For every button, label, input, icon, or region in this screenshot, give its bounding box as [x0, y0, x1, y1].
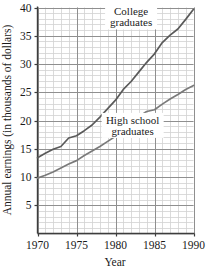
- series-annotations: CollegegraduatesHigh schoolgraduates: [102, 4, 164, 137]
- x-tick-label-1980: 1980: [104, 239, 127, 251]
- earnings-line-chart: 510152025303540 19701975198019851990 Col…: [0, 0, 207, 272]
- y-tick-label-5: 5: [26, 199, 32, 211]
- x-tick-label-1985: 1985: [143, 239, 166, 251]
- chart-canvas: 510152025303540 19701975198019851990 Col…: [0, 0, 207, 272]
- y-tick-label-35: 35: [20, 30, 32, 42]
- x-tick-label-1970: 1970: [26, 239, 49, 251]
- x-tick-label-1990: 1990: [182, 239, 205, 251]
- y-tick-label-20: 20: [20, 115, 32, 127]
- y-tick-label-15: 15: [20, 143, 32, 155]
- annotation-line-2: graduates: [110, 16, 152, 28]
- y-axis-title: Annual earnings (in thousands of dollars…: [1, 24, 14, 215]
- annotation-line-2: graduates: [112, 125, 154, 137]
- y-tick-label-10: 10: [20, 171, 32, 183]
- y-axis-tick-labels: 510152025303540: [20, 2, 32, 212]
- y-tick-label-25: 25: [20, 86, 32, 98]
- x-tick-label-1975: 1975: [65, 239, 88, 251]
- y-tick-label-40: 40: [20, 2, 32, 14]
- y-tick-label-30: 30: [20, 58, 32, 70]
- x-axis-title: Year: [104, 256, 125, 268]
- x-axis-tick-labels: 19701975198019851990: [26, 239, 205, 251]
